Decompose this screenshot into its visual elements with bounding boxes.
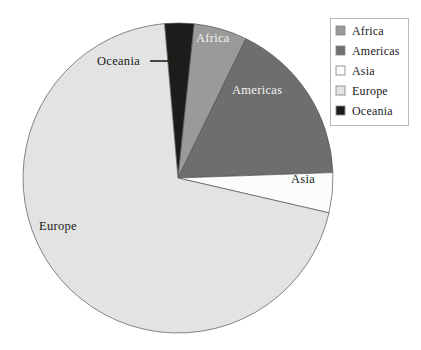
slice-label-europe: Europe	[39, 219, 77, 233]
slice-label-asia: Asia	[291, 172, 315, 186]
legend-label-asia: Asia	[352, 64, 375, 78]
legend-swatch-europe	[336, 86, 345, 95]
legend-label-europe: Europe	[352, 84, 388, 98]
legend-swatch-asia	[336, 66, 345, 75]
legend-swatch-oceania	[336, 106, 345, 115]
legend-label-oceania: Oceania	[352, 104, 393, 118]
legend-swatch-americas	[336, 46, 345, 55]
slice-label-africa: Africa	[196, 31, 230, 45]
legend-label-americas: Americas	[352, 44, 400, 58]
pie-chart-canvas: Africa Americas Asia Europe Oceania Afri…	[0, 0, 421, 350]
legend: Africa Americas Asia Europe Oceania	[331, 19, 409, 126]
pie-chart-figure: Africa Americas Asia Europe Oceania Afri…	[0, 0, 421, 350]
pie-slices-group	[23, 23, 333, 333]
legend-label-africa: Africa	[352, 24, 384, 38]
callout-label-oceania: Oceania	[97, 54, 140, 68]
legend-swatch-africa	[336, 26, 345, 35]
slice-label-americas: Americas	[232, 83, 282, 97]
